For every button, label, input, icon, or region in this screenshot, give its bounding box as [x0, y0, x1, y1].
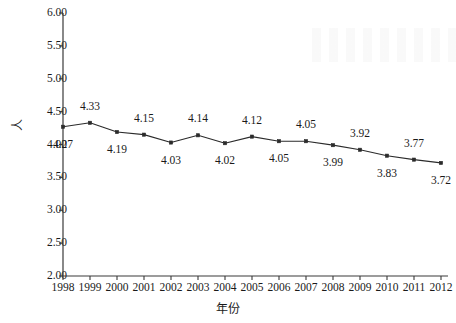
data-point-label: 3.83	[365, 167, 409, 179]
data-point-label: 4.19	[95, 143, 139, 155]
data-point-label: 4.05	[257, 152, 301, 164]
data-point-label: 4.27	[41, 138, 85, 150]
line-chart: 人 年份 6.005.505.004.504.003.503.002.502.0…	[0, 0, 456, 323]
data-point-label: 4.05	[284, 118, 328, 130]
data-point-label: 4.33	[68, 100, 112, 112]
data-point-label: 3.77	[392, 137, 436, 149]
data-point-label: 3.99	[311, 156, 355, 168]
data-point-label: 3.92	[338, 127, 382, 139]
data-point-label: 4.14	[176, 112, 220, 124]
data-point-label: 4.12	[230, 114, 274, 126]
data-point-label: 4.02	[203, 154, 247, 166]
data-point-label: 4.03	[149, 154, 193, 166]
data-point-label: 3.72	[419, 174, 456, 186]
data-point-label: 4.15	[122, 112, 166, 124]
